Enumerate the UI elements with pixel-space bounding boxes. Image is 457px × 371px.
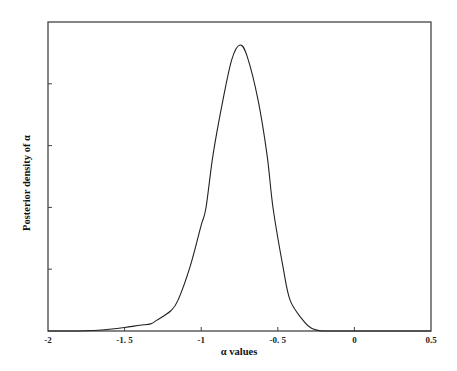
y-axis-label: Posterior density of α — [21, 135, 32, 231]
density-curve — [48, 45, 431, 331]
density-chart — [0, 0, 457, 371]
x-axis-label: α values — [221, 346, 258, 357]
x-tick-label: -1. 5 — [116, 335, 133, 345]
x-tick-label: 0 — [352, 335, 357, 345]
x-tick-label: 0.5 — [425, 335, 436, 345]
x-tick-label: -2 — [44, 335, 52, 345]
x-tick-label: -1 — [197, 335, 205, 345]
x-tick-label: -0. 5 — [270, 335, 287, 345]
plot-frame — [48, 22, 431, 331]
